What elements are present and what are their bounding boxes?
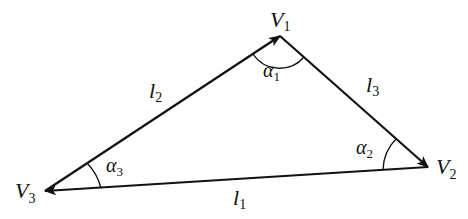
vector-triangle-diagram: V1 V2 V3 l1 l2 l3 α1 α2 α3: [0, 0, 468, 219]
vertex-label-v3: V3: [15, 178, 35, 206]
angle-label-alpha2: α2: [356, 136, 373, 161]
edge-l2: [45, 36, 280, 191]
vertex-label-v2: V2: [436, 154, 456, 182]
edge-label-l3: l3: [366, 72, 379, 99]
edge-label-l2: l2: [149, 78, 162, 105]
angle-label-alpha1: α1: [263, 59, 280, 84]
angle-arc-alpha3: [87, 163, 101, 188]
edge-label-l1: l1: [233, 185, 246, 212]
vertex-label-v1: V1: [270, 7, 290, 34]
angle-label-alpha3: α3: [106, 154, 123, 179]
angle-arc-alpha2: [383, 139, 396, 170]
angle-arc-alpha1: [253, 54, 304, 68]
edge-l3: [280, 36, 428, 167]
